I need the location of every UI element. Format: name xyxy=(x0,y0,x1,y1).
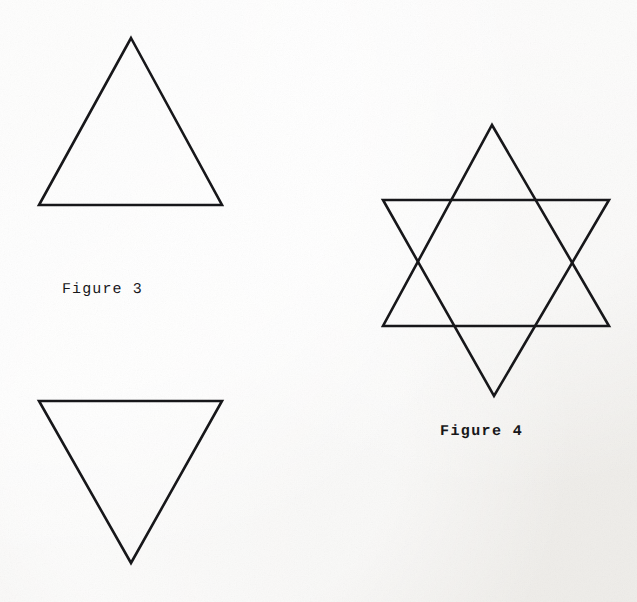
figure-4-downward-triangle-canvas xyxy=(0,0,637,602)
star-downward-triangle xyxy=(383,200,609,396)
figure-3-caption: Figure 3 xyxy=(62,282,143,297)
figure-stage: Figure 3 Figure 4 xyxy=(0,0,637,602)
figure-4-caption: Figure 4 xyxy=(440,424,523,439)
